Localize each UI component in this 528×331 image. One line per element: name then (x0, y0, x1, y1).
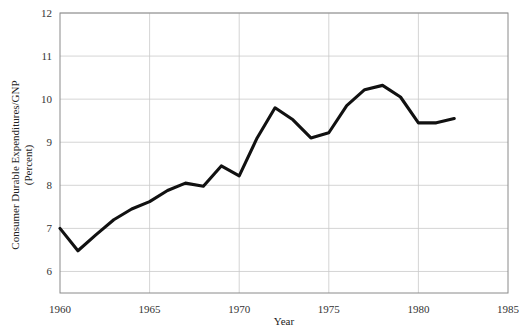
gridlines-group (60, 13, 508, 293)
y-tick-label: 6 (47, 265, 53, 277)
y-axis-title: Consumer Durable Expenditures/GNP (9, 80, 21, 249)
x-axis-title: Year (274, 315, 295, 327)
line-chart-svg: 6789101112 196019651970197519801985 Year… (0, 0, 528, 331)
x-tick-label: 1965 (139, 303, 162, 315)
y-tick-label: 12 (41, 7, 52, 19)
y-tick-label: 11 (41, 50, 52, 62)
x-tick-label: 1960 (49, 303, 72, 315)
y-tick-label: 9 (47, 136, 53, 148)
plot-border (60, 13, 508, 293)
chart-container: 6789101112 196019651970197519801985 Year… (0, 0, 528, 331)
y-tick-label: 10 (41, 93, 53, 105)
y-tick-label: 8 (47, 179, 53, 191)
y-axis-tick-labels: 6789101112 (41, 7, 53, 277)
data-series-group (60, 85, 454, 250)
x-tick-label: 1980 (407, 303, 430, 315)
x-tick-label: 1985 (497, 303, 520, 315)
plot-frame (60, 13, 508, 293)
y-tick-label: 7 (47, 222, 53, 234)
y-axis-title-units: (Percent) (22, 145, 35, 186)
data-line-consumer-durable-expenditures-gnp (60, 85, 454, 250)
x-tick-label: 1975 (318, 303, 341, 315)
x-tick-label: 1970 (228, 303, 251, 315)
x-axis-tick-labels: 196019651970197519801985 (49, 303, 520, 315)
